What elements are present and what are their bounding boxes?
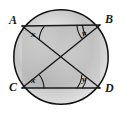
angle-label-x-at-C: x [30, 75, 36, 85]
vertex-label-A: A [8, 13, 17, 27]
angle-label-x-at-A: x [30, 29, 36, 39]
vertex-label-C: C [9, 80, 18, 94]
geometry-figure-container: A B C D x y x y [0, 0, 121, 115]
vertex-label-B: B [104, 12, 113, 26]
chord-AB [22, 25, 100, 26]
vertex-label-D: D [104, 81, 114, 95]
circle-geometry-diagram: A B C D x y x y [0, 0, 121, 115]
